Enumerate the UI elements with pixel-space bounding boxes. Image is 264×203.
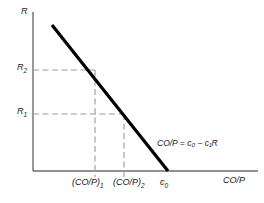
y-axis-label: R [21, 7, 28, 16]
x-tick-label-cop2-text: (CO/P) [113, 177, 141, 187]
x-tick-label-cop1-text: (CO/P) [72, 177, 100, 187]
data-line-co-p [52, 25, 168, 171]
y-tick-label-r1-subscript: 1 [24, 111, 28, 118]
x-intercept-label-c0-subscript: 0 [165, 182, 169, 189]
y-tick-label-r2: R2 [17, 63, 27, 74]
x-tick-label-cop2: (CO/P)2 [113, 178, 145, 189]
x-tick-label-cop1-subscript: 1 [100, 182, 104, 189]
chart-figure: R CO/P R2 R1 (CO/P)1 (CO/P)2 c0 CO/P = c… [0, 0, 264, 203]
plot-area [0, 0, 264, 203]
x-intercept-label-c0: c0 [160, 178, 168, 189]
x-tick-label-cop2-subscript: 2 [141, 182, 145, 189]
line-equation-annotation: CO/P = c₀ − c₁R [157, 139, 218, 148]
y-tick-label-r1: R1 [17, 107, 27, 118]
y-tick-label-r2-subscript: 2 [24, 67, 28, 74]
x-axis-label: CO/P [223, 176, 245, 185]
x-tick-label-cop1: (CO/P)1 [72, 178, 104, 189]
